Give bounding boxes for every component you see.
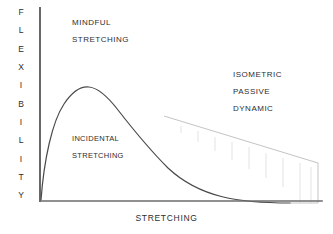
annotation-incidental-line-2: STRETCHING [72,147,124,164]
annotation-methods-line-1: ISOMETRIC [233,66,282,83]
annotation-mindful-line-2: STRETCHING [72,31,129,48]
y-axis-letter-t: T [18,173,23,182]
y-axis-letter-b: B [18,100,24,109]
y-axis-letter-f: F [18,8,23,17]
y-axis-letter-x: X [18,63,24,72]
y-axis-letter-i1: I [20,81,22,90]
y-axis-letter-l1: L [19,26,24,35]
annotation-stretching-methods: ISOMETRIC PASSIVE DYNAMIC [233,66,282,117]
annotation-methods-line-2: PASSIVE [233,83,282,100]
annotation-mindful-line-1: MINDFUL [72,14,129,31]
y-axis-letter-i3: I [20,155,22,164]
y-axis-letter-i2: I [20,118,22,127]
annotation-incidental-line-1: INCIDENTAL [72,130,124,147]
flexibility-stretching-diagram: F L E X I B I L I T Y MINDFUL STRETCHING… [0,0,333,234]
annotation-mindful-stretching: MINDFUL STRETCHING [72,14,129,48]
hatched-wedge-region [164,116,318,203]
y-axis-label: F L E X I B I L I T Y [14,8,28,200]
y-axis-letter-l2: L [19,136,24,145]
x-axis-label: STRETCHING [0,213,333,223]
y-axis-letter-y: Y [18,191,24,200]
plot-area [0,0,333,234]
annotation-incidental-stretching: INCIDENTAL STRETCHING [72,130,124,164]
y-axis-letter-e: E [18,45,24,54]
annotation-methods-line-3: DYNAMIC [233,100,282,117]
